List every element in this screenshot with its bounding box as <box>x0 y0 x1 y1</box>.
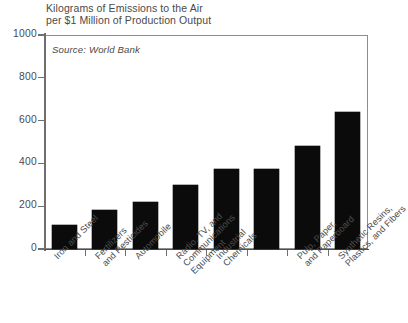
y-axis-tick-mark <box>38 77 45 78</box>
y-axis-tick-mark <box>38 206 45 207</box>
x-axis-tick-mark <box>206 250 207 256</box>
x-axis-tick-mark <box>85 250 86 256</box>
x-axis-tick-mark <box>247 250 248 256</box>
x-axis-category-label: Fertilizersand Pesticides <box>93 211 151 269</box>
x-axis-tick-mark <box>125 250 126 256</box>
x-axis-tick-mark <box>287 250 288 256</box>
y-axis-tick-mark <box>38 34 45 35</box>
y-axis-tick-mark <box>38 120 45 121</box>
x-axis-tick-mark <box>166 250 167 256</box>
y-axis-tick-mark <box>38 248 45 249</box>
x-axis-category-label: Synthetic Resins,Plastics, and Fibers <box>336 196 408 268</box>
y-axis-tick-mark <box>38 163 45 164</box>
x-axis-tick-mark <box>328 250 329 256</box>
